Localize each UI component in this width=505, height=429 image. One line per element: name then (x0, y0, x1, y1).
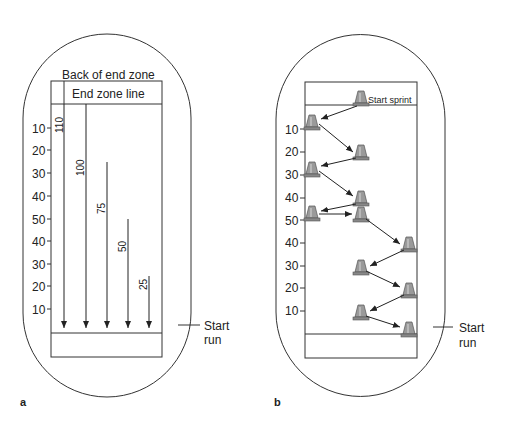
svg-text:10: 10 (285, 123, 299, 137)
svg-text:10: 10 (285, 304, 299, 318)
run-arrows (64, 104, 149, 328)
svg-text:25: 25 (138, 278, 149, 290)
yard-markers: 10 20 30 40 50 40 30 20 10 (32, 122, 51, 317)
start-run-label-2: run (459, 336, 476, 350)
svg-text:30: 30 (285, 168, 299, 182)
svg-text:40: 40 (32, 235, 46, 249)
svg-text:10: 10 (32, 122, 46, 136)
svg-text:75: 75 (96, 202, 107, 214)
svg-text:100: 100 (75, 159, 86, 176)
diagram-canvas: Back of end zone End zone line 10 20 30 … (0, 0, 505, 429)
svg-text:20: 20 (32, 280, 46, 294)
svg-text:50: 50 (32, 213, 46, 227)
svg-text:20: 20 (285, 145, 299, 159)
svg-text:50: 50 (285, 214, 299, 228)
svg-text:20: 20 (285, 281, 299, 295)
start-run-label-2: run (204, 333, 221, 347)
start-run-label-1: Start (204, 319, 230, 333)
svg-text:10: 10 (32, 303, 46, 317)
svg-text:50: 50 (117, 240, 128, 252)
svg-text:30: 30 (32, 258, 46, 272)
svg-text:30: 30 (32, 167, 46, 181)
run-distance-labels: 110 100 75 50 25 (54, 117, 149, 290)
panel-b: 10 20 30 40 50 40 30 20 10 (274, 35, 485, 408)
svg-text:40: 40 (285, 191, 299, 205)
svg-text:40: 40 (285, 236, 299, 250)
start-sprint-label: Start sprint (368, 95, 412, 105)
panel-a: Back of end zone End zone line 10 20 30 … (20, 34, 230, 408)
svg-text:20: 20 (32, 144, 46, 158)
end-zone-line-label: End zone line (72, 87, 145, 101)
svg-text:30: 30 (285, 259, 299, 273)
svg-text:40: 40 (32, 190, 46, 204)
panel-b-label: b (274, 396, 281, 408)
start-run-label-1: Start (459, 321, 485, 335)
back-of-end-zone-label: Back of end zone (62, 68, 155, 82)
panel-a-label: a (20, 396, 27, 408)
svg-text:110: 110 (54, 117, 65, 133)
